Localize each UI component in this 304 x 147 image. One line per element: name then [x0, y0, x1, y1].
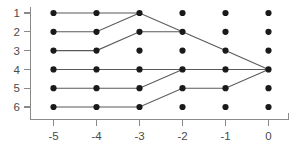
data-point	[50, 104, 56, 110]
data-point	[93, 66, 99, 72]
x-tick-label: -1	[220, 130, 230, 142]
data-point	[265, 66, 271, 72]
data-point	[50, 85, 56, 91]
data-point	[50, 66, 56, 72]
data-point	[93, 29, 99, 35]
data-point	[136, 104, 142, 110]
x-tick-label: -2	[177, 130, 187, 142]
path-edges	[54, 13, 269, 107]
data-point	[179, 85, 185, 91]
y-axis-group: 123456	[14, 7, 31, 120]
data-point	[222, 85, 228, 91]
data-point	[179, 29, 185, 35]
data-point	[179, 48, 185, 54]
data-point	[50, 29, 56, 35]
x-tick-marks	[54, 120, 269, 127]
y-tick-label: 1	[14, 7, 20, 19]
y-tick-label: 6	[14, 101, 20, 113]
data-point	[93, 85, 99, 91]
data-point	[222, 10, 228, 16]
data-point	[222, 48, 228, 54]
plot-canvas: 123456 -5-4-3-2-10	[0, 0, 304, 147]
x-axis-group: -5-4-3-2-10	[30, 113, 289, 142]
data-point	[222, 104, 228, 110]
y-tick-label: 5	[14, 82, 20, 94]
path-row-1	[54, 13, 269, 69]
data-point	[93, 48, 99, 54]
data-point	[93, 104, 99, 110]
data-point	[136, 48, 142, 54]
x-tick-labels: -5-4-3-2-10	[48, 130, 271, 142]
x-tick-label: -4	[91, 130, 102, 142]
path-row-3	[54, 32, 183, 51]
y-tick-label: 4	[14, 64, 21, 76]
data-point	[179, 66, 185, 72]
y-tick-labels: 123456	[14, 7, 21, 113]
path-row-5	[54, 69, 183, 88]
data-point	[179, 104, 185, 110]
y-tick-label: 2	[14, 26, 20, 38]
scatter-plot-figure: 123456 -5-4-3-2-10	[0, 0, 304, 147]
data-point	[265, 48, 271, 54]
data-point	[222, 66, 228, 72]
data-points	[50, 10, 271, 110]
y-tick-marks	[24, 13, 31, 107]
data-point	[136, 66, 142, 72]
x-tick-label: -5	[48, 130, 58, 142]
data-point	[50, 48, 56, 54]
x-tick-label: 0	[265, 130, 271, 142]
y-tick-label: 3	[14, 45, 20, 57]
data-point	[93, 10, 99, 16]
data-point	[265, 29, 271, 35]
data-point	[136, 10, 142, 16]
data-point	[222, 29, 228, 35]
data-point	[265, 10, 271, 16]
data-point	[179, 10, 185, 16]
data-point	[136, 85, 142, 91]
data-point	[265, 85, 271, 91]
x-tick-label: -3	[134, 130, 144, 142]
data-point	[50, 10, 56, 16]
data-point	[136, 29, 142, 35]
data-point	[265, 104, 271, 110]
